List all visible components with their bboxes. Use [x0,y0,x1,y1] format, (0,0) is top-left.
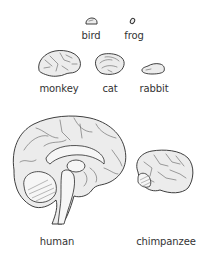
label-monkey: monkey [37,83,81,95]
rabbit-brain-icon [142,64,164,74]
brain-comparison-figure [0,0,207,266]
monkey-brain-icon [39,50,81,76]
label-chimpanzee: chimpanzee [134,236,198,248]
label-bird: bird [79,30,103,42]
bird-brain-icon [86,18,97,24]
chimpanzee-brain-icon [137,150,193,193]
label-rabbit: rabbit [138,83,170,95]
label-frog: frog [122,30,146,42]
cat-brain-icon [95,54,124,75]
human-brain-icon [13,116,125,224]
label-cat: cat [98,83,122,95]
frog-brain-icon [129,18,135,25]
label-human: human [37,236,77,248]
